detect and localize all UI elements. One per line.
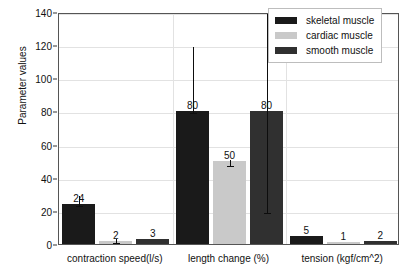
bar (290, 236, 323, 244)
x-axis-category-label: length change (%) (188, 253, 269, 264)
y-axis-tick-mark (53, 79, 57, 80)
y-axis-tick-mark (53, 13, 57, 14)
bar (364, 241, 397, 244)
y-axis-tick-mark (53, 112, 57, 113)
x-axis-category-label: contraction speed(l/s) (67, 253, 163, 264)
legend: skeletal musclecardiac musclesmooth musc… (268, 8, 382, 63)
bar-chart: Parameter values 2423805080512 020406080… (0, 0, 403, 279)
bar-value-label: 5 (303, 225, 309, 236)
bar-value-label: 1 (340, 231, 346, 242)
legend-item[interactable]: cardiac muscle (274, 28, 374, 43)
error-bar-cap (76, 206, 83, 207)
error-bar-cap (227, 166, 234, 167)
grid-line (59, 80, 398, 81)
y-axis-tick-label: 120 (12, 41, 52, 52)
y-axis-tick-label: 20 (12, 206, 52, 217)
y-axis-tick-label: 80 (12, 107, 52, 118)
bar (62, 204, 95, 244)
y-axis-tick-mark (53, 211, 57, 212)
y-axis-tick-mark (53, 178, 57, 179)
bar (176, 111, 209, 244)
y-axis-tick-label: 60 (12, 140, 52, 151)
legend-item[interactable]: smooth muscle (274, 43, 374, 58)
legend-label: cardiac muscle (306, 30, 373, 41)
y-axis-tick-label: 140 (12, 8, 52, 19)
error-bar-cap (113, 243, 120, 244)
legend-swatch-icon (274, 46, 298, 55)
legend-swatch-icon (274, 31, 298, 40)
y-axis-tick-label: 100 (12, 74, 52, 85)
bar-value-label: 2 (377, 230, 383, 241)
bar-value-label: 80 (187, 100, 198, 111)
legend-item[interactable]: skeletal muscle (274, 13, 374, 28)
bar (213, 161, 246, 244)
legend-label: smooth muscle (306, 45, 373, 56)
x-axis-category-label: tension (kgf/cm^2) (301, 253, 382, 264)
y-axis-tick-mark (53, 145, 57, 146)
y-axis-title: Parameter values (17, 16, 28, 156)
bar (327, 242, 360, 244)
y-axis-tick-label: 0 (12, 240, 52, 251)
y-axis-tick-label: 40 (12, 173, 52, 184)
error-bar-cap (190, 113, 197, 114)
y-axis-tick-mark (53, 245, 57, 246)
grid-line (59, 113, 398, 114)
error-bar-cap (264, 213, 271, 214)
bar-value-label: 24 (73, 193, 84, 204)
bar-value-label: 3 (150, 228, 156, 239)
legend-swatch-icon (274, 16, 298, 25)
bar-value-label: 50 (224, 150, 235, 161)
bar (136, 239, 169, 244)
grid-line (59, 147, 398, 148)
bar-value-label: 80 (261, 100, 272, 111)
legend-label: skeletal muscle (306, 15, 374, 26)
grid-line-vertical (173, 14, 174, 244)
y-axis-tick-mark (53, 46, 57, 47)
bar-value-label: 2 (113, 230, 119, 241)
